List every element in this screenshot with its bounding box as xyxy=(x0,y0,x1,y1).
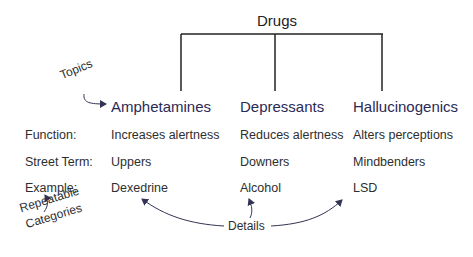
cell-example-amphetamines: Dexedrine xyxy=(111,181,168,195)
cell-example-depressants: Alcohol xyxy=(240,181,281,195)
topic-hallucinogenics: Hallucinogenics xyxy=(353,98,458,115)
cell-function-depressants: Reduces alertness xyxy=(240,128,344,142)
hierarchy-lines xyxy=(181,34,383,91)
row-label-function: Function: xyxy=(25,128,76,142)
cell-street-amphetamines: Uppers xyxy=(111,155,151,169)
cell-function-hallucinogenics: Alters perceptions xyxy=(353,128,453,142)
details-arrow-alcohol xyxy=(249,199,252,218)
topic-amphetamines: Amphetamines xyxy=(111,98,211,115)
details-arrow-dexedrine xyxy=(142,199,224,226)
details-arrow-lsd xyxy=(271,200,342,226)
root-node: Drugs xyxy=(257,12,297,29)
details-annotation: Details xyxy=(228,219,265,233)
cell-example-hallucinogenics: LSD xyxy=(353,181,377,195)
row-label-street-term: Street Term: xyxy=(25,155,93,169)
cell-function-amphetamines: Increases alertness xyxy=(111,128,219,142)
topics-arrow xyxy=(84,94,106,104)
cell-street-hallucinogenics: Mindbenders xyxy=(353,155,425,169)
topic-depressants: Depressants xyxy=(240,98,324,115)
cell-street-depressants: Downers xyxy=(240,155,289,169)
